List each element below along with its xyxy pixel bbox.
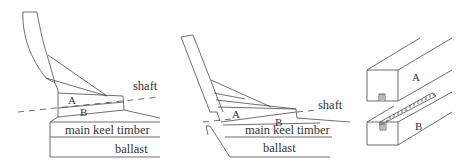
left-b-label: B <box>80 106 87 118</box>
left-ballast-label: ballast <box>115 142 148 156</box>
joint-a-label: A <box>412 71 420 83</box>
middle-section-drawing <box>181 35 350 157</box>
left-shaft-label: shaft <box>133 79 158 93</box>
middle-ballast-label: ballast <box>263 141 296 155</box>
joint-b-label: B <box>415 120 422 132</box>
middle-shaft-label: shaft <box>318 98 343 112</box>
left-keel-label: main keel timber <box>65 123 151 137</box>
joint-detail-drawing <box>367 38 452 145</box>
left-a-label: A <box>68 94 76 106</box>
keel-diagram: shaft A B main keel timber ballast shaft… <box>0 0 473 166</box>
middle-keel-label: main keel timber <box>245 123 331 137</box>
middle-a-label: A <box>232 108 240 120</box>
